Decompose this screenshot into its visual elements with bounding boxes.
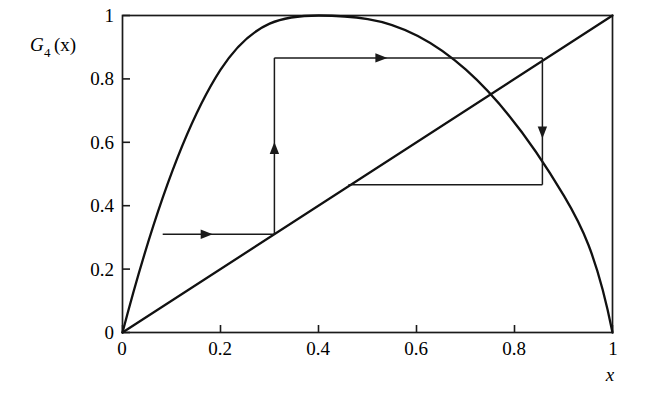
cobweb-plot: 0 0.2 0.4 0.6 0.8 1 0 0.2 0.4 0.6 0.8 1 … bbox=[0, 0, 650, 394]
x-tick-label-0.8: 0.8 bbox=[502, 338, 526, 359]
x-tick-label-0.2: 0.2 bbox=[208, 338, 232, 359]
cobweb-arrow-v2-down-icon bbox=[538, 127, 547, 139]
y-tick-label-0.4: 0.4 bbox=[90, 195, 114, 216]
x-tick-label-1: 1 bbox=[608, 338, 618, 359]
y-tick-label-0.2: 0.2 bbox=[90, 259, 114, 280]
x-axis-tick-labels: 0 0.2 0.4 0.6 0.8 1 bbox=[117, 338, 618, 359]
y-tick-label-0.6: 0.6 bbox=[90, 132, 114, 153]
y-axis-ticks bbox=[123, 16, 131, 333]
identity-line bbox=[123, 16, 613, 333]
cobweb-orbit bbox=[163, 53, 547, 239]
x-tick-label-0: 0 bbox=[117, 338, 127, 359]
y-axis-title-argument: (x) bbox=[54, 34, 76, 56]
figure-container: 0 0.2 0.4 0.6 0.8 1 0 0.2 0.4 0.6 0.8 1 … bbox=[0, 0, 650, 394]
x-tick-label-0.4: 0.4 bbox=[306, 338, 330, 359]
x-axis-title: x bbox=[605, 364, 615, 385]
y-axis-tick-labels: 0 0.2 0.4 0.6 0.8 1 bbox=[90, 5, 114, 343]
x-axis-ticks bbox=[123, 325, 613, 333]
x-tick-label-0.6: 0.6 bbox=[404, 338, 428, 359]
cobweb-arrow-h2-right-icon bbox=[375, 53, 387, 62]
y-tick-label-0.8: 0.8 bbox=[90, 68, 114, 89]
y-axis-title-subscript: 4 bbox=[44, 45, 51, 60]
y-axis-title-main: G bbox=[30, 34, 44, 55]
cobweb-arrow-v1-up-icon bbox=[270, 142, 279, 154]
cobweb-arrow-h1-right-icon bbox=[201, 230, 213, 239]
y-tick-label-0: 0 bbox=[105, 322, 115, 343]
y-tick-label-1: 1 bbox=[105, 5, 115, 26]
y-axis-title: G 4 (x) bbox=[30, 34, 76, 60]
